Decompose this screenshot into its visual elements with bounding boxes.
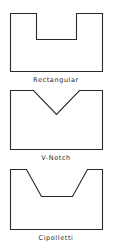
rectangular-weir-shape — [11, 14, 103, 72]
cipolletti-weir-label: Cipolletti — [0, 234, 112, 242]
v-notch-weir-label: V-Notch — [0, 154, 112, 162]
weir-shapes — [0, 0, 117, 249]
cipolletti-weir-shape — [11, 170, 103, 230]
v-notch-weir-shape — [11, 91, 103, 150]
rectangular-weir-label: Rectangular — [0, 76, 112, 84]
weir-types-diagram: Rectangular V-Notch Cipolletti — [0, 0, 117, 249]
